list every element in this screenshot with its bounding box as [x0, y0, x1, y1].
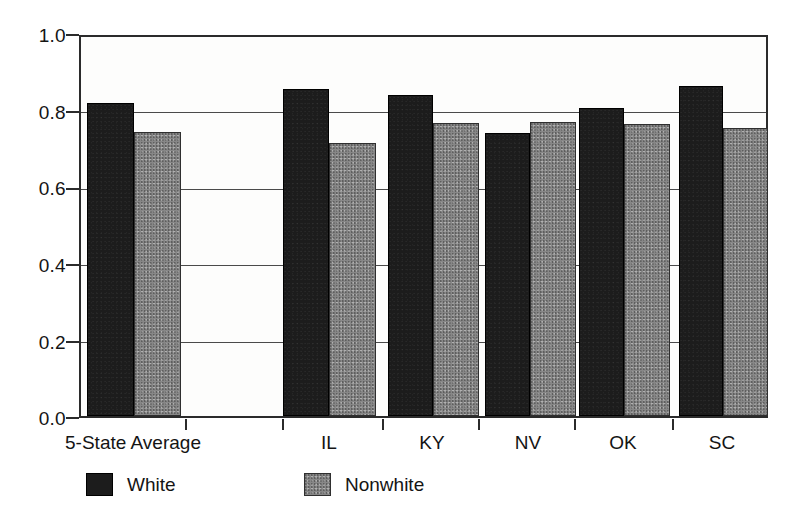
- x-tick-mark-5: [672, 419, 674, 430]
- legend-entry-white: White: [86, 473, 176, 496]
- bar-nonwhite-il: [329, 143, 376, 416]
- bar-white-ok: [579, 108, 624, 416]
- x-tick-label-ky: KY: [419, 432, 444, 454]
- y-tick-mark-0.4: [66, 264, 79, 266]
- y-tick-label-0.8: 0.8: [20, 103, 66, 122]
- y-tick-label-1.0: 1.0: [20, 26, 66, 45]
- legend-swatch-nonwhite-icon: [304, 473, 331, 496]
- bar-nonwhite-ky: [433, 123, 479, 416]
- y-tick-label-0.6: 0.6: [20, 179, 66, 198]
- plot-area: [79, 35, 768, 418]
- bar-chart: 1.0 0.8 0.6 0.4 0.2 0.0: [0, 0, 789, 521]
- y-tick-mark-0.8: [66, 111, 79, 113]
- x-tick-mark-1: [282, 419, 284, 430]
- x-tick-label-ok: OK: [609, 432, 636, 454]
- legend-label-nonwhite: Nonwhite: [345, 475, 424, 494]
- y-tick-mark-0.2: [66, 341, 79, 343]
- bar-white-ky: [388, 95, 433, 416]
- y-tick-mark-1.0: [66, 34, 79, 36]
- x-tick-label-5-state-average: 5-State Average: [65, 432, 201, 454]
- bar-white-5-state-average: [87, 103, 134, 416]
- bar-white-il: [283, 89, 329, 416]
- y-tick-mark-0.0: [66, 417, 79, 419]
- y-tick-label-0.2: 0.2: [20, 333, 66, 352]
- bar-white-nv: [485, 133, 530, 416]
- x-tick-mark-4: [574, 419, 576, 430]
- x-tick-mark-3: [478, 419, 480, 430]
- bar-nonwhite-sc: [723, 128, 768, 416]
- x-tick-label-il: IL: [321, 432, 337, 454]
- bar-nonwhite-ok: [624, 124, 670, 416]
- legend-label-white: White: [127, 475, 176, 494]
- x-tick-label-nv: NV: [515, 432, 541, 454]
- legend-swatch-white-icon: [86, 473, 113, 496]
- bar-nonwhite-5-state-average: [134, 132, 181, 416]
- bar-nonwhite-nv: [530, 122, 576, 416]
- legend-entry-nonwhite: Nonwhite: [304, 473, 424, 496]
- x-tick-mark-0: [185, 419, 187, 430]
- y-tick-mark-0.6: [66, 188, 79, 190]
- x-tick-label-sc: SC: [709, 432, 735, 454]
- bar-white-sc: [679, 86, 723, 416]
- y-tick-label-0.0: 0.0: [20, 409, 66, 428]
- y-tick-label-0.4: 0.4: [20, 256, 66, 275]
- x-tick-mark-2: [382, 419, 384, 430]
- y-axis: 1.0 0.8 0.6 0.4 0.2 0.0: [10, 0, 66, 521]
